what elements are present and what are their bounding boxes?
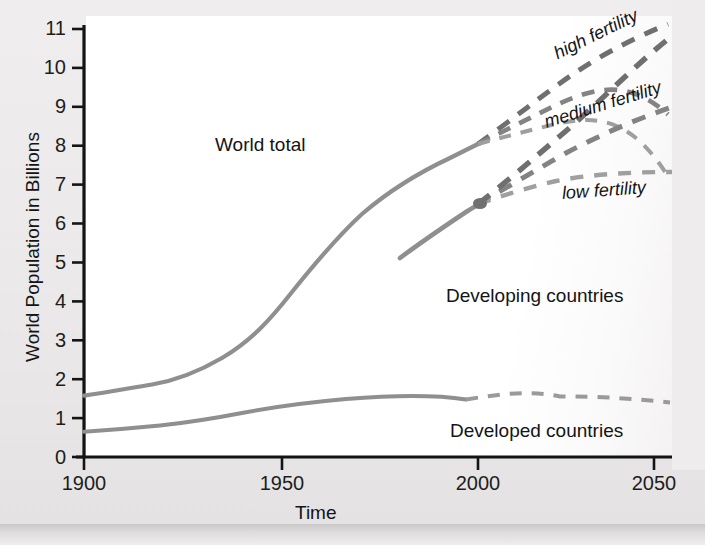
series-world-total-historical	[84, 144, 478, 396]
x-tick-label-1900: 1900	[44, 472, 124, 495]
chart-canvas	[0, 0, 705, 545]
y-axis-ticks	[72, 29, 84, 457]
y-tick-label-10: 10	[26, 56, 66, 79]
y-tick-label-11: 11	[26, 17, 66, 40]
x-tick-label-1950: 1950	[242, 472, 322, 495]
annotation-developing-countries: Developing countries	[446, 285, 623, 307]
series-developed-countries-historical	[84, 396, 466, 432]
axis-lines	[76, 25, 672, 458]
annotation-developed-countries: Developed countries	[450, 420, 623, 442]
x-tick-label-2050: 2050	[614, 472, 694, 495]
y-axis-title: World Population in Billions	[22, 97, 44, 397]
y-tick-label-1: 1	[26, 407, 66, 430]
y-tick-label-0: 0	[26, 446, 66, 469]
x-axis-title: Time	[295, 502, 337, 524]
series-developed-countries-projection	[466, 393, 670, 402]
x-tick-label-2000: 2000	[438, 472, 518, 495]
x-axis-ticks	[84, 457, 654, 470]
annotation-world-total: World total	[215, 134, 305, 156]
chart-figure: 11 10 9 8 7 6 5 4 3 2 1 0 1900 1950 2000…	[0, 0, 705, 545]
